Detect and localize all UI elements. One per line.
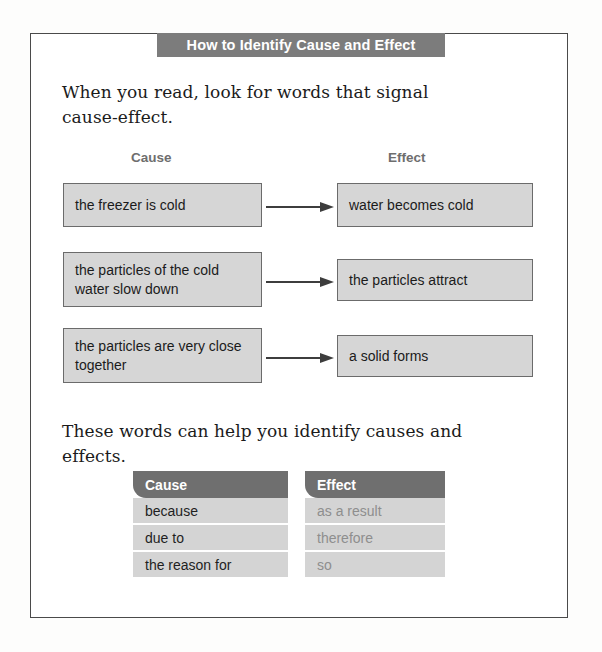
flow-row: the particles of the cold water slow dow…: [0, 252, 602, 307]
flow-effect-box: a solid forms: [337, 335, 533, 377]
table-row: so: [305, 552, 445, 579]
mid-paragraph: These words can help you identify causes…: [62, 419, 522, 468]
table-row: therefore: [305, 525, 445, 552]
table-row: because: [133, 498, 288, 525]
table-header-effect: Effect: [305, 471, 445, 498]
flow-effect-box: water becomes cold: [337, 183, 533, 227]
flow-effect-box: the particles attract: [337, 259, 533, 301]
flow-row: the freezer is cold water becomes cold: [0, 183, 602, 227]
table-row: the reason for: [133, 552, 288, 579]
flow-column-heading-cause: Cause: [131, 150, 251, 165]
intro-paragraph: When you read, look for words that signa…: [62, 80, 482, 129]
flow-column-heading-effect: Effect: [388, 150, 508, 165]
table-header-cause: Cause: [133, 471, 288, 498]
table-row: due to: [133, 525, 288, 552]
arrow-right-icon: [266, 274, 334, 286]
flow-cause-box: the particles are very close together: [63, 328, 262, 383]
flow-cause-box: the particles of the cold water slow dow…: [63, 252, 262, 307]
flow-row: the particles are very close together a …: [0, 328, 602, 383]
arrow-right-icon: [266, 199, 334, 211]
arrow-right-icon: [266, 350, 334, 362]
table-row: as a result: [305, 498, 445, 525]
signal-words-table-effect: Effect as a result therefore so: [305, 471, 445, 579]
signal-words-table-cause: Cause because due to the reason for: [133, 471, 288, 579]
title-banner: How to Identify Cause and Effect: [157, 33, 445, 57]
flow-cause-box: the freezer is cold: [63, 183, 262, 227]
